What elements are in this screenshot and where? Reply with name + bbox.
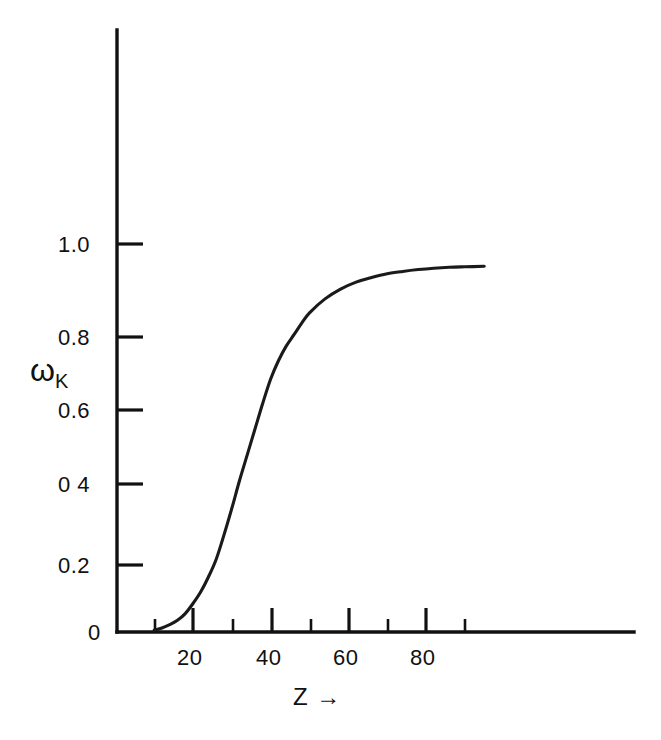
data-curve: [154, 266, 484, 630]
horizontal-axis-minor-ticks: [155, 619, 465, 632]
x-tick-label-60: 60: [333, 645, 358, 671]
y-tick-label-1.0: 1.0: [58, 232, 90, 258]
y-tick-label-0: 0: [88, 620, 101, 646]
x-tick-label-20: 20: [177, 645, 202, 671]
vertical-axis-ticks: [117, 244, 143, 565]
x-tick-label-80: 80: [410, 645, 435, 671]
horizontal-axis-major-ticks: [193, 608, 426, 632]
y-tick-label-0.6: 0.6: [58, 398, 90, 424]
y-tick-label-0.4: 0 4: [58, 472, 90, 498]
omega-subscript: K: [55, 370, 68, 392]
x-tick-label-40: 40: [256, 645, 281, 671]
y-tick-label-0.2: 0.2: [58, 553, 90, 579]
y-tick-label-0.8: 0.8: [58, 325, 90, 351]
horizontal-axis-title: Z →: [293, 683, 341, 711]
omega-symbol: ω: [30, 352, 55, 388]
figure-container: 1.0 0.8 0.6 0 4 0.2 0 20 40 60 80 ωK Z →: [0, 0, 661, 740]
vertical-axis-title: ωK: [30, 352, 68, 393]
